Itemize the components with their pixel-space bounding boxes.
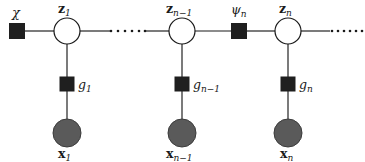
label-xn-1: xn−1	[166, 148, 193, 161]
observed-node-xn-1	[168, 119, 196, 147]
factor-node-gn-1	[175, 77, 189, 91]
label-zn-1: zn−1	[166, 3, 192, 16]
observed-node-x1	[53, 119, 81, 147]
ellipsis-dots-left	[110, 30, 147, 33]
variable-node-zn	[275, 18, 301, 44]
label-zn: zn	[279, 3, 292, 16]
label-psi-n: ψn	[231, 4, 247, 17]
label-gn-1: gn−1	[193, 79, 220, 92]
variable-node-zn-1	[169, 18, 195, 44]
variable-node-z1	[54, 18, 80, 44]
factor-node-chi	[10, 24, 25, 39]
observed-node-xn	[274, 119, 302, 147]
factor-node-g1	[60, 77, 74, 91]
factor-node-gn	[281, 77, 295, 91]
label-xn: xn	[280, 148, 293, 161]
label-g1: g1	[78, 79, 92, 92]
label-chi: χ	[12, 6, 20, 19]
label-z1: z1	[58, 3, 71, 16]
factor-node-psi-n	[232, 24, 247, 39]
label-gn: gn	[299, 79, 313, 92]
factor-graph-figure: χ z1 zn−1 ψn zn g1 gn−1 gn x1 xn−1 xn	[0, 0, 365, 162]
ellipsis-dots-right	[331, 30, 364, 33]
label-x1: x1	[58, 148, 71, 161]
